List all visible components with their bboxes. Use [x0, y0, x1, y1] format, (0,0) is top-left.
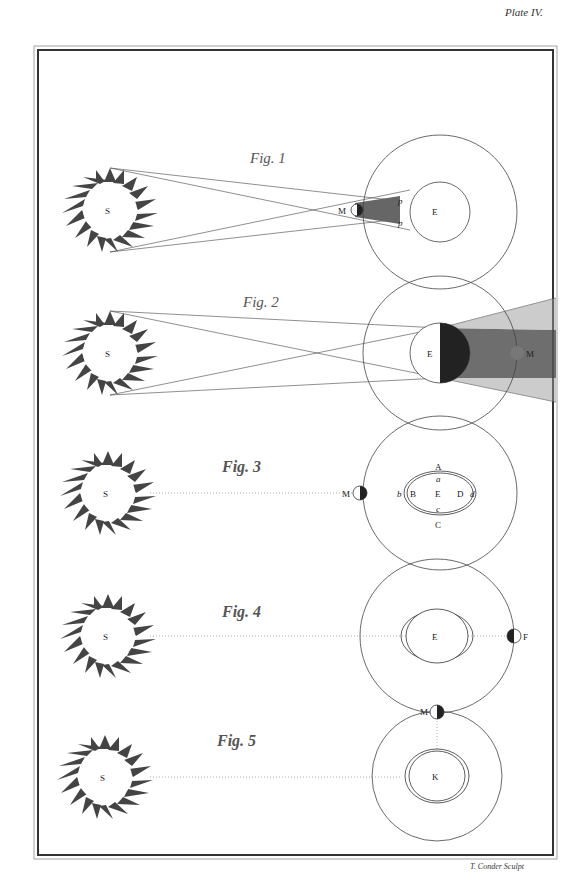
earth-label: E [432, 207, 438, 217]
figure-4-title: Fig. 4 [221, 603, 261, 621]
figure-5: Fig. 5 S K M [57, 705, 502, 841]
sun-label: S [105, 206, 110, 216]
svg-text:S: S [103, 632, 108, 642]
svg-text:M: M [420, 707, 428, 717]
figure-3-title: Fig. 3 [221, 458, 261, 476]
figure-4: Fig. 4 S E F [60, 559, 528, 713]
svg-text:a: a [436, 474, 441, 484]
earth-circle [410, 182, 470, 242]
svg-text:b: b [397, 489, 402, 499]
svg-text:K: K [432, 772, 439, 782]
figure-5-title: Fig. 5 [216, 732, 256, 750]
moon-label: M [338, 206, 346, 216]
svg-text:p: p [397, 196, 403, 206]
svg-text:p: p [397, 218, 403, 228]
svg-text:S: S [100, 773, 105, 783]
svg-text:C: C [435, 520, 441, 530]
svg-text:A: A [435, 462, 442, 472]
engraver-signature: T. Conder Sculpt [470, 862, 524, 871]
figure-2: Fig. 2 S E M [62, 276, 556, 430]
svg-text:M: M [526, 349, 534, 359]
svg-text:E: E [427, 349, 433, 359]
astronomy-plate: Fig. 1 S M E p p Fig. 2 S E M [0, 0, 586, 891]
svg-text:F: F [523, 632, 528, 642]
svg-text:B: B [410, 489, 416, 499]
svg-text:S: S [105, 349, 110, 359]
figure-1: Fig. 1 S M E p p [62, 135, 517, 289]
figure-2-title: Fig. 2 [242, 294, 279, 310]
svg-text:c: c [436, 504, 440, 514]
svg-text:E: E [432, 632, 438, 642]
svg-text:d: d [470, 489, 475, 499]
figure-1-title: Fig. 1 [249, 150, 286, 166]
figure-3: Fig. 3 S M E A a B b D d c C [60, 416, 517, 570]
svg-text:S: S [103, 489, 108, 499]
svg-text:E: E [435, 489, 441, 499]
svg-text:D: D [457, 489, 464, 499]
svg-text:M: M [342, 489, 350, 499]
